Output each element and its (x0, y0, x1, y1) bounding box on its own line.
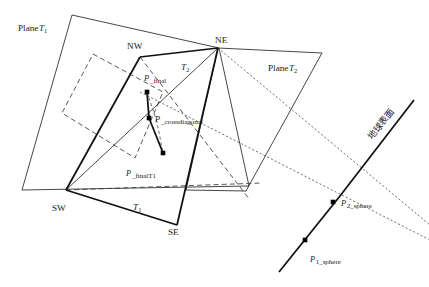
label-p1-sphere-symbol: P (309, 255, 315, 264)
label-corner-sw: SW (52, 203, 66, 213)
se-to-ne-edge (177, 48, 218, 225)
label-p-crossdiagonal-subscript: _crossdiagonal (160, 118, 203, 126)
label-p2-sphere-symbol: P (340, 199, 346, 208)
label-corner-ne: NE (215, 35, 228, 45)
geometry-diagram-svg: PlaneT1 PlaneT2 NW NE SW SE T1 T2 P_fina… (0, 0, 429, 287)
plane-t2-outline (186, 48, 322, 191)
label-p2-sphere: P2_sphere (340, 199, 372, 210)
label-plane-t2-subscript: 2 (294, 67, 297, 74)
label-triangle-t1: T1 (133, 202, 141, 213)
label-p2-sphere-subscript: 2_sphere (347, 202, 372, 210)
label-plane-t2: PlaneT2 (268, 63, 297, 74)
label-triangle-t2: T2 (181, 62, 189, 73)
label-p-crossdiagonal: P_crossdiagonal (154, 115, 203, 126)
label-triangle-t1-subscript: 1 (138, 206, 141, 213)
diagram-canvas: PlaneT1 PlaneT2 NW NE SW SE T1 T2 P_fina… (0, 0, 429, 287)
label-plane-t1-subscript: 1 (44, 27, 47, 34)
point-marker-p-finalt1 (161, 151, 166, 156)
label-corner-se: SE (168, 227, 179, 237)
label-p-finalt1-subscript: _finalT1 (131, 172, 157, 180)
label-plane-t2-word: Plane (268, 63, 288, 73)
label-p-final-symbol: P (143, 74, 149, 83)
label-p1-sphere-subscript: 1_sphere (316, 258, 341, 266)
point-marker-p1-sphere (303, 238, 308, 243)
label-p1-sphere: P1_sphere (309, 255, 341, 266)
point-marker-p-final (145, 90, 150, 95)
point-marker-p-crossdiagonal (147, 116, 152, 121)
label-p-finalt1: P_finalT1 (125, 169, 157, 180)
label-plane-t1: PlaneT1 (18, 23, 47, 34)
sw-to-se-edge (66, 190, 177, 225)
label-triangle-t2-subscript: 2 (186, 66, 189, 73)
label-plane-t1-word: Plane (18, 23, 38, 33)
label-corner-nw: NW (127, 41, 143, 51)
label-earth-surface: 地球表面 (365, 106, 396, 141)
nw-to-ne-edge (140, 48, 218, 57)
ne-dotted-ray (218, 48, 429, 225)
label-p-final-subscript: _final (149, 77, 166, 85)
label-p-crossdiagonal-symbol: P (154, 115, 160, 124)
earth-surface-curve (279, 100, 414, 272)
point-marker-p2-sphere (331, 200, 336, 205)
label-p-finalt1-symbol: P (125, 169, 131, 178)
